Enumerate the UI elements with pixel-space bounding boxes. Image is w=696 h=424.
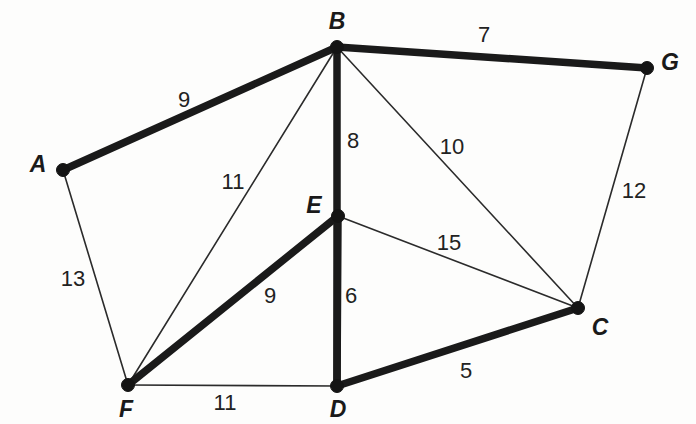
graph-vertex-dot-c — [572, 302, 585, 315]
graph-vertex-dot-a — [57, 164, 70, 177]
graph-edge-weight-f-d: 11 — [214, 392, 237, 414]
graph-vertex-label-b: B — [329, 10, 346, 33]
graph-edge-weight-a-f: 13 — [61, 268, 85, 290]
graph-vertex-dot-g — [641, 62, 654, 75]
graph-edge-e-f — [128, 216, 338, 385]
graph-vertex-label-a: A — [30, 153, 47, 176]
weighted-graph-figure: ABCDEFG978965131110151211 — [0, 0, 696, 424]
graph-vertex-label-e: E — [306, 194, 321, 217]
graph-edge-weight-b-c: 10 — [440, 136, 464, 158]
graph-vertex-label-f: F — [119, 398, 133, 421]
graph-edge-b-c — [337, 47, 578, 308]
graph-edge-weight-b-g: 7 — [478, 24, 490, 46]
graph-vertex-label-d: D — [330, 398, 347, 421]
graph-vertex-dot-d — [331, 380, 344, 393]
graph-edge-a-b — [63, 47, 337, 170]
graph-edge-f-d — [128, 385, 337, 386]
graph-edge-b-g — [337, 47, 647, 68]
graph-vertex-dot-f — [122, 379, 135, 392]
graph-vertex-dot-e — [332, 210, 345, 223]
graph-edge-weight-g-c: 12 — [622, 180, 646, 202]
graph-edge-d-c — [337, 308, 578, 386]
graph-edge-weight-e-c: 15 — [437, 232, 461, 254]
graph-vertex-dot-b — [331, 41, 344, 54]
graph-edge-weight-d-c: 5 — [460, 360, 472, 382]
graph-edge-weight-e-d: 6 — [345, 285, 357, 307]
graph-edge-weight-b-f: 11 — [222, 171, 245, 193]
graph-edge-weight-a-b: 9 — [178, 89, 190, 111]
graph-edge-e-d — [337, 216, 338, 386]
edges-layer — [63, 47, 647, 386]
graph-edge-weight-e-f: 9 — [264, 285, 276, 307]
graph-vertex-label-g: G — [661, 51, 679, 74]
vertices-layer — [57, 41, 654, 393]
graph-edge-weight-b-d: 8 — [347, 130, 359, 152]
graph-canvas — [0, 0, 696, 424]
graph-vertex-label-c: C — [592, 316, 609, 339]
